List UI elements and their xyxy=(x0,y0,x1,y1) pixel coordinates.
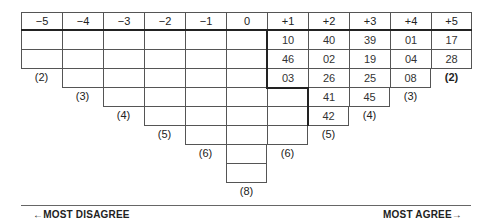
sort-slot[interactable] xyxy=(185,31,226,50)
sort-slot[interactable] xyxy=(62,69,103,88)
most-agree-label: MOST AGREE→ xyxy=(383,209,462,220)
sort-slot[interactable]: 19 xyxy=(349,50,390,69)
sort-slot[interactable] xyxy=(144,50,185,69)
column-header: −4 xyxy=(62,12,103,30)
column-header: +3 xyxy=(349,12,390,30)
column-header: −3 xyxy=(103,12,144,30)
sort-slot[interactable] xyxy=(185,126,226,145)
sort-slot[interactable] xyxy=(103,69,144,88)
column-header: −2 xyxy=(144,12,185,30)
sort-slot[interactable] xyxy=(267,107,308,126)
column-header: +5 xyxy=(431,12,472,30)
slot-count-label: (4) xyxy=(103,109,144,121)
slot-count-label: (5) xyxy=(144,128,185,140)
sorted-boundary-line xyxy=(266,87,309,89)
sort-slot[interactable]: 03 xyxy=(267,69,308,88)
slot-count-label: (3) xyxy=(390,90,431,102)
sort-slot[interactable] xyxy=(144,88,185,107)
sort-slot[interactable]: 04 xyxy=(390,50,431,69)
slot-count-label: (6) xyxy=(185,147,226,159)
sort-slot[interactable] xyxy=(226,50,267,69)
sort-slot[interactable]: 45 xyxy=(349,88,390,107)
sort-slot[interactable]: 25 xyxy=(349,69,390,88)
sort-slot[interactable]: 39 xyxy=(349,31,390,50)
sort-slot[interactable]: 26 xyxy=(308,69,349,88)
sorted-boundary-line xyxy=(307,87,309,126)
slot-count-label: (2) xyxy=(431,71,472,83)
sort-slot[interactable]: 40 xyxy=(308,31,349,50)
column-header: +4 xyxy=(390,12,431,30)
sort-slot[interactable]: 01 xyxy=(390,31,431,50)
sort-slot[interactable]: 10 xyxy=(267,31,308,50)
sort-slot[interactable] xyxy=(185,107,226,126)
slot-count-label: (8) xyxy=(226,185,267,197)
sort-slot[interactable] xyxy=(185,69,226,88)
sort-slot[interactable] xyxy=(226,107,267,126)
slot-count-label: (6) xyxy=(267,147,308,159)
slot-count-label: (5) xyxy=(308,128,349,140)
sort-slot[interactable] xyxy=(226,69,267,88)
sort-slot[interactable] xyxy=(103,31,144,50)
sort-slot[interactable] xyxy=(226,31,267,50)
sort-slot[interactable]: 17 xyxy=(431,31,472,50)
slot-count-label: (2) xyxy=(21,71,62,83)
sort-slot[interactable]: 08 xyxy=(390,69,431,88)
slot-count-label: (4) xyxy=(349,109,390,121)
column-header: +1 xyxy=(267,12,308,30)
header-underline xyxy=(21,29,472,31)
sort-slot[interactable] xyxy=(144,69,185,88)
sort-slot[interactable] xyxy=(21,31,62,50)
sort-slot[interactable] xyxy=(103,88,144,107)
sort-slot[interactable]: 41 xyxy=(308,88,349,107)
footer-divider xyxy=(21,205,471,206)
sort-slot[interactable] xyxy=(226,88,267,107)
column-header: −1 xyxy=(185,12,226,30)
column-header: −5 xyxy=(21,12,62,30)
sorted-boundary-line xyxy=(266,31,268,89)
sort-slot[interactable]: 46 xyxy=(267,50,308,69)
sort-slot[interactable]: 02 xyxy=(308,50,349,69)
sort-slot[interactable] xyxy=(103,50,144,69)
sort-slot[interactable] xyxy=(144,107,185,126)
sort-slot[interactable] xyxy=(21,50,62,69)
sort-slot[interactable] xyxy=(226,126,267,145)
q-sort-grid: −5(2)−4(3)−3(4)−2(5)−1(6)0(8)+1104603(6)… xyxy=(0,0,490,220)
sort-slot[interactable] xyxy=(62,31,103,50)
column-header: +2 xyxy=(308,12,349,30)
sort-slot[interactable]: 28 xyxy=(431,50,472,69)
sort-slot[interactable] xyxy=(267,126,308,145)
sort-slot[interactable] xyxy=(226,164,267,183)
sort-slot[interactable] xyxy=(144,31,185,50)
sort-slot[interactable] xyxy=(226,145,267,164)
sort-slot[interactable] xyxy=(185,50,226,69)
slot-count-label: (3) xyxy=(62,90,103,102)
sort-slot[interactable] xyxy=(185,88,226,107)
sort-slot[interactable] xyxy=(62,50,103,69)
most-disagree-label: ←MOST DISAGREE xyxy=(33,209,130,220)
sort-slot[interactable]: 42 xyxy=(308,107,349,126)
column-header: 0 xyxy=(226,12,267,30)
sort-slot[interactable] xyxy=(267,88,308,107)
